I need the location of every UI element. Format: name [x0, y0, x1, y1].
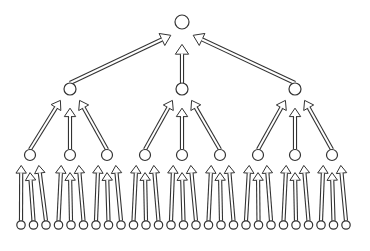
- arrowhead-icon: [281, 165, 291, 173]
- arrowhead-icon: [318, 165, 328, 173]
- leaf-node: [329, 221, 337, 229]
- edge-inner: [30, 107, 56, 149]
- leaf-node: [217, 221, 225, 229]
- arrowhead-icon: [176, 108, 187, 116]
- edge-inner: [182, 180, 183, 221]
- leaf-node: [254, 221, 262, 229]
- leaf-node: [204, 221, 212, 229]
- arrowhead-icon: [224, 165, 234, 173]
- edge-inner: [70, 39, 162, 83]
- leaf-node: [54, 221, 62, 229]
- leaf-node: [142, 221, 150, 229]
- leaf-node: [42, 221, 50, 229]
- level2-node: [253, 150, 264, 161]
- edge-inner: [308, 107, 332, 149]
- leaf-node: [279, 221, 287, 229]
- arrowhead-icon: [16, 165, 26, 173]
- edge-inner: [107, 180, 108, 221]
- edge-inner: [145, 107, 169, 149]
- arrow-join: [167, 107, 169, 108]
- leaf-node: [29, 221, 37, 229]
- arrow-join: [195, 107, 197, 108]
- leaf-node: [17, 221, 25, 229]
- root-node: [175, 15, 189, 29]
- arrowhead-icon: [289, 108, 300, 116]
- leaf-node: [129, 221, 137, 229]
- leaf-node: [192, 221, 200, 229]
- edge-inner: [332, 180, 333, 221]
- edge-inner: [196, 107, 220, 149]
- edge-inner: [220, 180, 221, 221]
- level2-node: [65, 150, 76, 161]
- arrow-join: [162, 39, 163, 41]
- leaf-node: [292, 221, 300, 229]
- leaf-node: [167, 221, 175, 229]
- arrowhead-icon: [206, 165, 216, 173]
- edge-inner: [40, 173, 46, 221]
- leaf-node: [317, 221, 325, 229]
- arrowhead-icon: [93, 165, 103, 173]
- arrowhead-icon: [131, 165, 141, 173]
- arrowhead-icon: [262, 165, 272, 173]
- leaf-node: [104, 221, 112, 229]
- tree-edges: [21, 39, 346, 221]
- tree-diagram: [0, 0, 370, 251]
- arrow-join: [308, 107, 310, 108]
- leaf-node: [179, 221, 187, 229]
- arrowhead-icon: [336, 165, 346, 173]
- edge-inner: [70, 180, 71, 221]
- edge-inner: [295, 180, 296, 221]
- arrowhead-icon: [244, 165, 254, 173]
- leaf-node: [342, 221, 350, 229]
- leaf-node: [117, 221, 125, 229]
- level1-node: [289, 83, 301, 95]
- level2-node: [177, 150, 188, 161]
- leaf-node: [229, 221, 237, 229]
- leaf-node: [79, 221, 87, 229]
- leaf-node: [154, 221, 162, 229]
- edge-inner: [145, 180, 146, 221]
- level2-node: [290, 150, 301, 161]
- leaf-node: [92, 221, 100, 229]
- arrowhead-icon: [56, 165, 66, 173]
- arrowhead-icon: [186, 165, 196, 173]
- level2-node: [215, 150, 226, 161]
- level2-node: [102, 150, 113, 161]
- arrowhead-icon: [168, 165, 178, 173]
- arrowhead-icon: [74, 165, 84, 173]
- arrowhead-icon: [64, 108, 75, 116]
- level1-node: [64, 83, 76, 95]
- edge-inner: [83, 107, 107, 149]
- level2-node: [140, 150, 151, 161]
- edge-inner: [202, 39, 295, 83]
- arrow-join: [202, 39, 203, 41]
- leaf-node: [67, 221, 75, 229]
- level2-node: [25, 150, 36, 161]
- arrowhead-icon: [175, 44, 188, 54]
- level2-node: [327, 150, 338, 161]
- arrow-join: [55, 107, 57, 108]
- edge-inner: [258, 107, 282, 149]
- level1-node: [176, 83, 188, 95]
- arrow-join: [280, 107, 282, 108]
- arrowhead-icon: [149, 165, 159, 173]
- arrowhead-icon: [299, 165, 309, 173]
- leaf-node: [242, 221, 250, 229]
- arrow-join: [83, 107, 85, 108]
- leaf-node: [304, 221, 312, 229]
- leaf-node: [267, 221, 275, 229]
- arrowhead-icon: [111, 165, 121, 173]
